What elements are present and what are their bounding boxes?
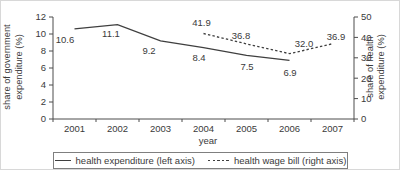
svg-text:36.9: 36.9 [327, 31, 346, 42]
svg-text:50: 50 [361, 11, 372, 22]
legend-label-health-expenditure: health expenditure (left axis) [76, 155, 195, 166]
svg-text:12: 12 [35, 11, 46, 22]
left-axis-title-line2: expenditure (%) [14, 34, 24, 100]
dashed-line-sample [208, 160, 229, 161]
svg-text:4: 4 [41, 79, 46, 90]
svg-text:32.0: 32.0 [295, 38, 314, 49]
right-axis-title-line1: share of health [365, 36, 375, 98]
x-axis-title: year [199, 135, 217, 146]
axes: 0246810120102030405020012002200320042005… [35, 11, 371, 134]
svg-text:2004: 2004 [193, 123, 214, 134]
line-chart: 0246810120102030405020012002200320042005… [1, 1, 400, 151]
svg-text:8: 8 [41, 45, 46, 56]
svg-text:10: 10 [35, 28, 46, 39]
svg-text:2001: 2001 [64, 123, 85, 134]
svg-text:2005: 2005 [236, 123, 257, 134]
right-axis-title-line2: expenditure (%) [376, 34, 386, 100]
chart-figure: 0246810120102030405020012002200320042005… [0, 0, 400, 170]
svg-text:8.4: 8.4 [192, 52, 205, 63]
svg-text:2003: 2003 [150, 123, 171, 134]
svg-text:0: 0 [41, 113, 46, 124]
legend-item-health-expenditure: health expenditure (left axis) [55, 155, 195, 166]
svg-text:11.1: 11.1 [102, 28, 120, 39]
legend-item-health-wage-bill: health wage bill (right axis) [208, 155, 346, 166]
svg-text:9.2: 9.2 [142, 45, 155, 56]
svg-text:36.8: 36.8 [232, 30, 251, 41]
svg-text:7.5: 7.5 [240, 61, 253, 72]
svg-text:2: 2 [41, 96, 46, 107]
left-axis-title-line1: share of government [2, 24, 12, 110]
svg-text:2007: 2007 [322, 123, 343, 134]
svg-text:6: 6 [41, 62, 46, 73]
svg-text:6.9: 6.9 [283, 67, 296, 78]
svg-text:41.9: 41.9 [192, 17, 211, 28]
solid-line-sample [55, 160, 71, 161]
legend: health expenditure (left axis) health wa… [53, 152, 348, 169]
svg-text:0: 0 [361, 113, 366, 124]
svg-text:10.6: 10.6 [56, 34, 75, 45]
svg-text:2006: 2006 [279, 123, 300, 134]
svg-text:2002: 2002 [107, 123, 128, 134]
legend-label-health-wage-bill: health wage bill (right axis) [234, 155, 346, 166]
